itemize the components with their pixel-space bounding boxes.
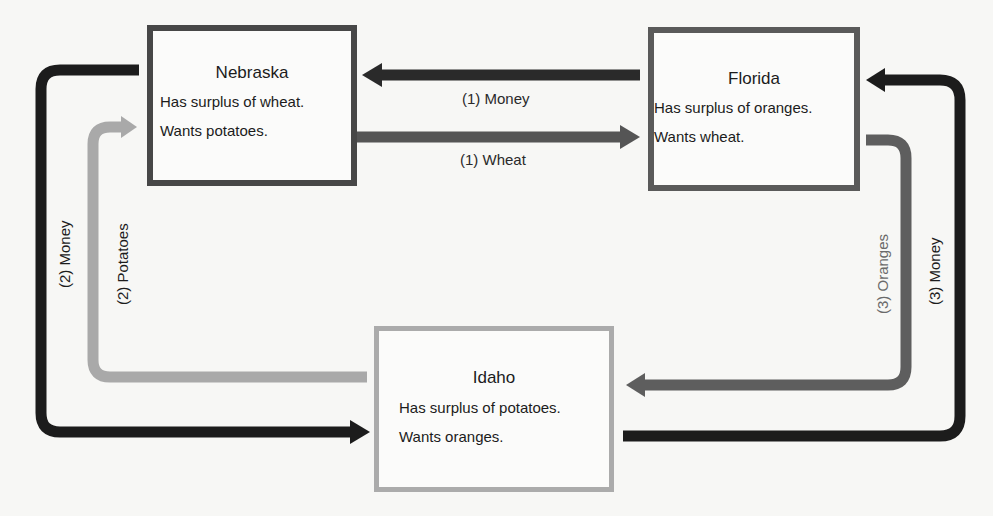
label-money-3: (3) Money xyxy=(926,237,943,305)
node-surplus: Has surplus of wheat. xyxy=(160,93,304,110)
label-wheat-1: (1) Wheat xyxy=(460,151,526,168)
arrow-wheat-1 xyxy=(357,125,640,149)
node-surplus: Has surplus of potatoes. xyxy=(399,399,561,416)
node-nebraska: Nebraska Has surplus of wheat. Wants pot… xyxy=(147,25,357,186)
node-title: Nebraska xyxy=(153,63,351,83)
label-money-2: (2) Money xyxy=(56,220,73,288)
node-wants: Wants potatoes. xyxy=(160,122,268,139)
arrow-money-1 xyxy=(362,63,640,87)
node-idaho: Idaho Has surplus of potatoes. Wants ora… xyxy=(374,326,614,492)
label-oranges-3: (3) Oranges xyxy=(874,234,891,314)
node-wants: Wants oranges. xyxy=(399,428,504,445)
node-title: Florida xyxy=(654,69,854,89)
label-potatoes-2: (2) Potatoes xyxy=(114,223,131,305)
node-title: Idaho xyxy=(379,368,609,388)
node-florida: Florida Has surplus of oranges. Wants wh… xyxy=(648,27,860,191)
node-wants: Wants wheat. xyxy=(654,128,744,145)
label-money-1: (1) Money xyxy=(462,90,530,107)
node-surplus: Has surplus of oranges. xyxy=(654,99,812,116)
